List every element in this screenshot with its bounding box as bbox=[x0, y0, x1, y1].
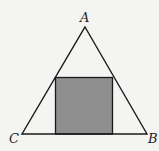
vertex-label-c: C bbox=[9, 131, 19, 146]
vertex-label-a: A bbox=[79, 10, 89, 25]
vertex-label-b: B bbox=[147, 131, 158, 146]
inscribed-square bbox=[56, 78, 113, 135]
triangle-diagram: A B C bbox=[0, 0, 159, 151]
